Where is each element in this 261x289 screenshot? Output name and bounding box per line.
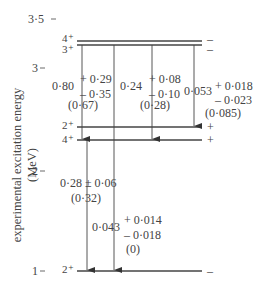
level-spin: 4⁺ <box>62 134 74 145</box>
transition-plus: + 0·018 <box>215 80 253 92</box>
level-spin: 2⁺ <box>62 120 74 131</box>
transition-value: 0·80 <box>52 80 74 92</box>
tick-2: 2 <box>32 165 38 177</box>
transition-theory: (0·67) <box>68 99 98 111</box>
transition-value: 0·053 <box>184 85 212 97</box>
transition-theory: (0·085) <box>205 107 241 119</box>
level-spin: 3⁺ <box>62 44 74 55</box>
level-spin: 2⁺ <box>62 264 74 275</box>
tick-3: 3 <box>32 62 38 74</box>
level-parity: – <box>207 265 213 277</box>
transition-theory: (0·28) <box>140 99 170 111</box>
transition-minus: – 0·018 <box>124 229 161 241</box>
transition-value: 0·24 <box>120 80 142 92</box>
transition-plus: + 0·014 <box>124 214 162 226</box>
transition-plus: + 0·29 <box>80 73 112 85</box>
tick-3-5: 3·5 <box>28 13 44 25</box>
level-parity: – <box>207 43 213 55</box>
level-parity: + <box>207 134 214 146</box>
transition-value: 0·28 ± 0·06 <box>60 177 117 189</box>
transition-theory: (0) <box>126 243 140 255</box>
transition-theory: (0·32) <box>71 192 101 204</box>
transition-value: 0·043 <box>92 221 120 233</box>
level-parity: + <box>207 121 214 133</box>
transition-plus: + 0·08 <box>149 73 181 85</box>
transition-minus: – 0·023 <box>215 94 252 106</box>
tick-1: 1 <box>32 265 38 277</box>
